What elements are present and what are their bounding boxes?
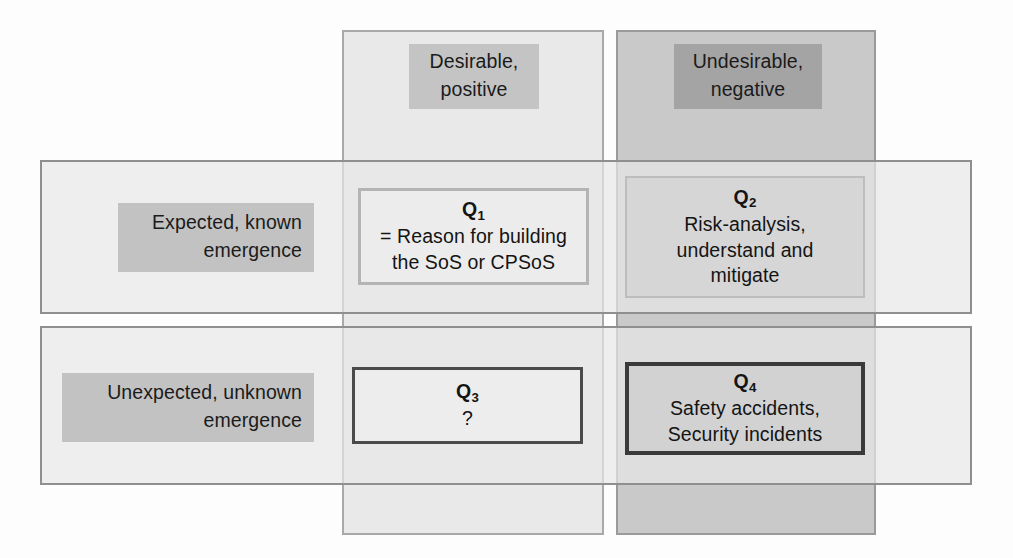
- quadrant-q4-line2: Security incidents: [668, 422, 823, 448]
- emergence-matrix-diagram: Desirable, positive Undesirable, negativ…: [0, 0, 1013, 558]
- column-header-undesirable: Undesirable, negative: [674, 44, 822, 109]
- quadrant-q2-line1: Risk-analysis,: [684, 212, 806, 238]
- row-label-unexpected-line1: Unexpected, unknown: [107, 381, 302, 403]
- quadrant-q4-line1: Safety accidents,: [670, 396, 820, 422]
- column-header-desirable-line1: Desirable,: [430, 50, 519, 72]
- column-header-undesirable-line1: Undesirable,: [693, 50, 804, 72]
- row-label-expected: Expected, known emergence: [118, 203, 314, 272]
- column-header-desirable: Desirable, positive: [409, 44, 539, 109]
- quadrant-q3: Q3 ?: [352, 367, 583, 444]
- quadrant-q4-label: Q4: [734, 369, 757, 395]
- quadrant-q2: Q2 Risk-analysis, understand and mitigat…: [625, 176, 865, 298]
- quadrant-q1: Q1 = Reason for building the SoS or CPSo…: [358, 188, 589, 285]
- quadrant-q1-line2: the SoS or CPSoS: [392, 250, 555, 276]
- quadrant-q4: Q4 Safety accidents, Security incidents: [625, 362, 865, 455]
- column-header-desirable-line2: positive: [441, 78, 508, 100]
- quadrant-q3-line1: ?: [462, 406, 473, 432]
- column-header-undesirable-line2: negative: [711, 78, 786, 100]
- quadrant-q2-line3: mitigate: [710, 263, 779, 289]
- row-label-unexpected: Unexpected, unknown emergence: [62, 373, 314, 442]
- row-label-unexpected-line2: emergence: [204, 409, 302, 431]
- quadrant-q1-line1: = Reason for building: [380, 224, 567, 250]
- quadrant-q3-label: Q3: [456, 379, 479, 405]
- quadrant-q2-label: Q2: [734, 185, 757, 211]
- row-label-expected-line1: Expected, known: [152, 211, 302, 233]
- row-label-expected-line2: emergence: [204, 239, 302, 261]
- quadrant-q2-line2: understand and: [677, 238, 814, 264]
- quadrant-q1-label: Q1: [462, 197, 485, 223]
